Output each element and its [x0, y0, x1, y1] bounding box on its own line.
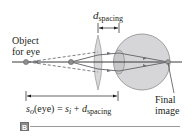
optics-diagram: dspacing Object for eye Final image so(e… [0, 0, 194, 138]
equation-label: so(eye) = si + dspacing [26, 104, 111, 116]
virtual-ray-lower [28, 62, 98, 72]
panel-label-badge: B [20, 122, 29, 131]
object-label: Object for eye [12, 36, 40, 57]
real-object-point [68, 59, 73, 64]
object-point [23, 59, 28, 64]
final-image-label: Final image [155, 95, 179, 116]
d-spacing-label: dspacing [93, 10, 123, 23]
arrow-icon [34, 60, 38, 64]
panel-divider [30, 126, 180, 127]
final-image-leader [168, 63, 174, 93]
